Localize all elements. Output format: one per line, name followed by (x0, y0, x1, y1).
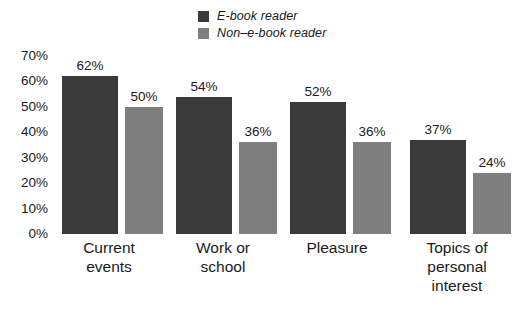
y-axis: 70%60%50%40%30%20%10%0% (0, 56, 48, 240)
bar-value-label: 52% (304, 85, 331, 99)
y-axis-tick-label: 60% (0, 74, 48, 88)
legend-label-ebook-reader: E-book reader (217, 10, 298, 23)
bar-value-label: 62% (76, 59, 103, 73)
bar (62, 76, 118, 234)
legend-label-non-ebook-reader: Non–e-book reader (217, 27, 326, 40)
x-axis-category-label: Topics of personal interest (382, 238, 515, 295)
bar-group: 52%36% (290, 56, 391, 234)
bar (239, 142, 277, 234)
y-axis-tick-label: 30% (0, 151, 48, 165)
y-axis-tick-label: 70% (0, 49, 48, 63)
bar-group: 37%24% (410, 56, 511, 234)
bar (290, 102, 346, 234)
chart-legend: E-book reader Non–e-book reader (198, 8, 418, 42)
bar (410, 140, 466, 234)
y-axis-tick-label: 20% (0, 176, 48, 190)
y-axis-tick-label: 50% (0, 100, 48, 114)
bar (125, 107, 163, 234)
bar (176, 97, 232, 234)
bar-value-label: 54% (190, 80, 217, 94)
legend-item-non-ebook-reader: Non–e-book reader (198, 25, 418, 42)
bar-group: 54%36% (176, 56, 277, 234)
legend-swatch-non-ebook-reader (198, 28, 209, 39)
plot-area: 62%50%54%36%52%36%37%24% (52, 56, 510, 234)
bar-value-label: 50% (130, 90, 157, 104)
bar-value-label: 24% (478, 156, 505, 170)
bar-value-label: 37% (424, 123, 451, 137)
bar-value-label: 36% (244, 125, 271, 139)
legend-item-ebook-reader: E-book reader (198, 8, 418, 25)
bar (473, 173, 511, 234)
y-axis-tick-label: 10% (0, 202, 48, 216)
bar-value-label: 36% (358, 125, 385, 139)
legend-swatch-ebook-reader (198, 11, 209, 22)
y-axis-tick-label: 40% (0, 125, 48, 139)
x-axis-category-labels: Current eventsWork or schoolPleasureTopi… (52, 238, 510, 310)
bar-group: 62%50% (62, 56, 163, 234)
bar (353, 142, 391, 234)
